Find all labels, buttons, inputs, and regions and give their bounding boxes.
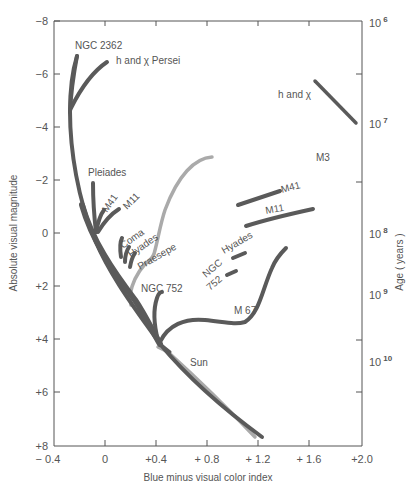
- y2-tick-label: 1010: [369, 354, 393, 368]
- y-tick-labels: −8 −6 −4 −2 0 +2 +4 +6 +8: [35, 15, 48, 452]
- m3-track: [130, 157, 255, 437]
- y2-tick-label: 109: [369, 287, 388, 301]
- x-tick-label: − 0.4: [36, 453, 61, 465]
- hr-diagram-chart: −8 −6 −4 −2 0 +2 +4 +6 +8 − 0.4 0 +0.4 +…: [0, 0, 415, 489]
- y-tick-label: 0: [42, 227, 48, 239]
- y-tick-label: +6: [35, 386, 48, 398]
- y-axis-ticks: [54, 21, 60, 392]
- label-h-chi-right: h and χ: [278, 89, 312, 100]
- y-tick-label: +2: [35, 280, 48, 292]
- x-tick-label: +2.0: [351, 453, 373, 465]
- main-sequence-tracks: [70, 56, 356, 437]
- label-m3: M3: [316, 152, 330, 163]
- label-ngc2362: NGC 2362: [75, 40, 123, 51]
- y2-tick-label: 108: [369, 226, 388, 240]
- x-tick-label: + 1.2: [246, 453, 271, 465]
- x-tick-label: + 0.8: [195, 453, 220, 465]
- x-tick-label: +0.4: [145, 453, 167, 465]
- label-h-chi-persei: h and χ Persei: [116, 55, 180, 66]
- x-axis-title: Blue minus visual color index: [144, 472, 273, 483]
- x-tick-labels: − 0.4 0 +0.4 + 0.8 + 1.2 + 1.6 +2.0: [36, 453, 373, 465]
- y2-tick-label: 107: [369, 116, 388, 130]
- top-x-ticks: [105, 21, 309, 26]
- label-ngc752-left: NGC 752: [141, 283, 183, 294]
- label-m11-right: M11: [264, 202, 285, 216]
- label-hyades-right: Hyades: [220, 229, 255, 255]
- y-axis-title: Absolute visual magnitude: [8, 174, 19, 291]
- y2-tick-label: 106: [369, 15, 388, 29]
- y2-axis-title: Age ( years ): [394, 233, 405, 290]
- x-tick-label: + 1.6: [297, 453, 322, 465]
- axes-frame: [54, 21, 362, 446]
- y2-tick-labels: 106 107 108 109 1010: [369, 15, 393, 368]
- y-tick-label: −6: [35, 68, 48, 80]
- label-m11-left: M11: [121, 190, 142, 211]
- label-sun: Sun: [190, 357, 208, 368]
- y-tick-label: −4: [35, 121, 48, 133]
- label-m41-right: M41: [280, 179, 302, 195]
- label-pleiades: Pleiades: [88, 167, 126, 178]
- x-axis-ticks: [105, 440, 309, 446]
- y-tick-label: +4: [35, 333, 48, 345]
- y-tick-label: −2: [35, 174, 48, 186]
- label-m67: M 67: [234, 305, 257, 316]
- y-tick-label: +8: [35, 440, 48, 452]
- y-tick-label: −8: [35, 15, 48, 27]
- x-tick-label: 0: [102, 453, 108, 465]
